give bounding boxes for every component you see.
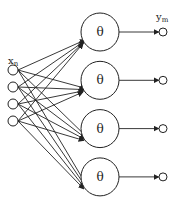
input-node-2 (8, 82, 18, 92)
output-node-3 (159, 125, 167, 133)
hidden-node-symbol: θ (96, 170, 103, 184)
output-label: ym (155, 11, 169, 24)
input-hidden-connections (18, 40, 86, 189)
connection-input-3-hidden-1 (18, 43, 83, 104)
hidden-node-symbol: θ (96, 25, 103, 39)
hidden-node-symbol: θ (96, 73, 103, 87)
connection-input-1-hidden-1 (18, 40, 85, 70)
output-node-4 (159, 173, 167, 181)
hidden-layer: θθθθ (81, 13, 119, 196)
neural-network-diagram: θθθθ xn ym (0, 0, 179, 204)
input-layer (8, 65, 18, 126)
output-node-1 (159, 28, 167, 36)
connection-input-2-hidden-1 (18, 41, 84, 87)
output-node-2 (159, 76, 167, 84)
output-label-subscript: m (162, 16, 169, 24)
input-node-4 (8, 116, 18, 126)
output-layer (159, 28, 167, 181)
hidden-node-symbol: θ (96, 122, 103, 136)
hidden-output-connections (119, 32, 159, 177)
input-node-3 (8, 99, 18, 109)
connection-input-4-hidden-2 (18, 92, 83, 121)
input-label-subscript: n (14, 60, 19, 68)
connection-input-2-hidden-2 (18, 87, 84, 90)
